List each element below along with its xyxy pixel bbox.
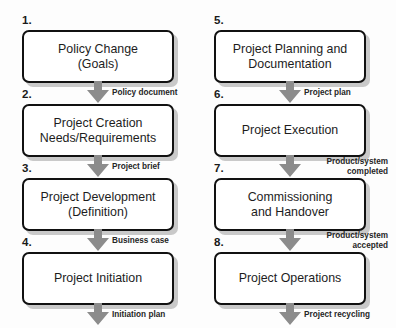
stage-6-number: 6. xyxy=(214,88,224,100)
stage-3-arrow-icon xyxy=(86,229,110,253)
stage-7-label: Commissioning and Handover xyxy=(244,190,337,219)
stage-1-number: 1. xyxy=(22,14,32,26)
stage-7-deliverable: Product/system accepted xyxy=(304,231,388,250)
stage-7-arrow-icon xyxy=(278,229,302,253)
stage-4-box[interactable]: Project Initiation xyxy=(22,252,174,305)
right-column: 5. Project Planning and Documentation Pr… xyxy=(208,0,384,328)
stage-6-deliverable: Product/system completed xyxy=(304,157,388,176)
stage-5-number: 5. xyxy=(214,14,224,26)
stage-5-arrow-icon xyxy=(278,81,302,105)
stage-1-box[interactable]: Policy Change (Goals) xyxy=(22,30,174,83)
stage-8-deliverable: Project recycling xyxy=(304,310,390,320)
stage-8-number: 8. xyxy=(214,236,224,248)
stage-3-label: Project Development (Definition) xyxy=(36,190,159,219)
stage-8-label: Project Operations xyxy=(235,271,346,286)
stage-3-number: 3. xyxy=(22,162,32,174)
stage-7-number: 7. xyxy=(214,162,224,174)
stage-4-arrow-icon xyxy=(86,303,110,327)
stage-5-deliverable: Project plan xyxy=(304,88,390,98)
stage-2-arrow-icon xyxy=(86,155,110,179)
stage-6-arrow-icon xyxy=(278,155,302,179)
stage-5-label: Project Planning and Documentation xyxy=(229,42,351,71)
stage-4-deliverable: Initiation plan xyxy=(112,310,198,320)
stage-6-box[interactable]: Project Execution xyxy=(214,104,366,157)
stage-8-box[interactable]: Project Operations xyxy=(214,252,366,305)
flowchart-canvas: 1. Policy Change (Goals) Policy document… xyxy=(0,0,396,328)
stage-6-label: Project Execution xyxy=(238,123,342,138)
stage-2-deliverable: Project brief xyxy=(112,162,198,172)
stage-1-deliverable: Policy document xyxy=(112,88,198,98)
stage-3-box[interactable]: Project Development (Definition) xyxy=(22,178,174,231)
stage-7-box[interactable]: Commissioning and Handover xyxy=(214,178,366,231)
stage-2-number: 2. xyxy=(22,88,32,100)
stage-4-number: 4. xyxy=(22,236,32,248)
left-column: 1. Policy Change (Goals) Policy document… xyxy=(16,0,192,328)
stage-8-arrow-icon xyxy=(278,303,302,327)
stage-1-label: Policy Change (Goals) xyxy=(54,42,142,71)
stage-5-box[interactable]: Project Planning and Documentation xyxy=(214,30,366,83)
stage-3-deliverable: Business case xyxy=(112,236,198,246)
stage-4-label: Project Initiation xyxy=(50,271,146,286)
stage-1-arrow-icon xyxy=(86,81,110,105)
stage-2-label: Project Creation Needs/Requirements xyxy=(36,116,160,145)
stage-2-box[interactable]: Project Creation Needs/Requirements xyxy=(22,104,174,157)
